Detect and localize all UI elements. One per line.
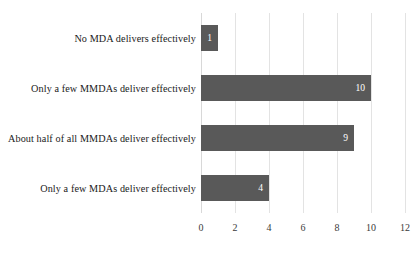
bar-value-label: 1 bbox=[207, 33, 212, 43]
category-label: About half of all MMDAs deliver effectiv… bbox=[0, 132, 196, 145]
bar-row: About half of all MMDAs deliver effectiv… bbox=[0, 113, 420, 163]
horizontal-bar-chart: No MDA delivers effectively1Only a few M… bbox=[0, 0, 420, 253]
x-tick-label: 10 bbox=[366, 222, 376, 233]
x-tick-label: 4 bbox=[267, 222, 272, 233]
x-tick-label: 12 bbox=[400, 222, 410, 233]
bar[interactable]: 9 bbox=[201, 125, 354, 151]
x-tick-label: 6 bbox=[301, 222, 306, 233]
category-label: No MDA delivers effectively bbox=[0, 32, 196, 45]
x-tick-label: 0 bbox=[199, 222, 204, 233]
bar[interactable]: 4 bbox=[201, 175, 269, 201]
bar-row: Only a few MDAs deliver effectively4 bbox=[0, 163, 420, 213]
bar[interactable]: 1 bbox=[201, 25, 218, 51]
bar-row: No MDA delivers effectively1 bbox=[0, 13, 420, 63]
bar-value-label: 9 bbox=[343, 133, 348, 143]
bar[interactable]: 10 bbox=[201, 75, 371, 101]
bar-value-label: 4 bbox=[258, 183, 263, 193]
bar-row: Only a few MMDAs deliver effectively10 bbox=[0, 63, 420, 113]
x-tick-label: 2 bbox=[233, 222, 238, 233]
category-label: Only a few MMDAs deliver effectively bbox=[0, 82, 196, 95]
category-label: Only a few MDAs deliver effectively bbox=[0, 182, 196, 195]
x-tick-label: 8 bbox=[335, 222, 340, 233]
x-axis: 024681012 bbox=[201, 222, 405, 240]
bar-value-label: 10 bbox=[355, 83, 365, 93]
